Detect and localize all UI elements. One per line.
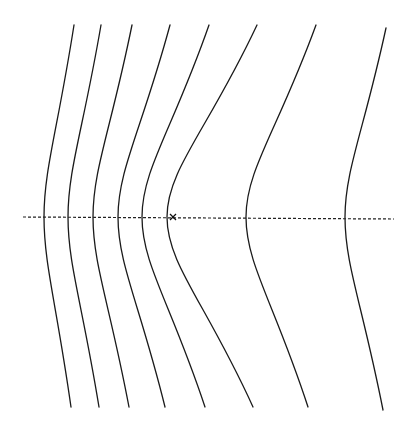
hyperbola-curve-5	[142, 25, 209, 407]
cross-marker-icon	[170, 214, 176, 220]
hyperbola-curve-7	[246, 25, 316, 407]
hyperbola-curve-6	[167, 25, 257, 407]
dashed-axis	[23, 217, 394, 219]
hyperbola-curve-3	[93, 25, 132, 407]
hyperbola-curve-2	[68, 25, 101, 407]
hyperbola-curve-1	[44, 25, 74, 407]
hyperbola-diagram	[0, 0, 412, 429]
hyperbola-curve-4	[118, 25, 170, 407]
